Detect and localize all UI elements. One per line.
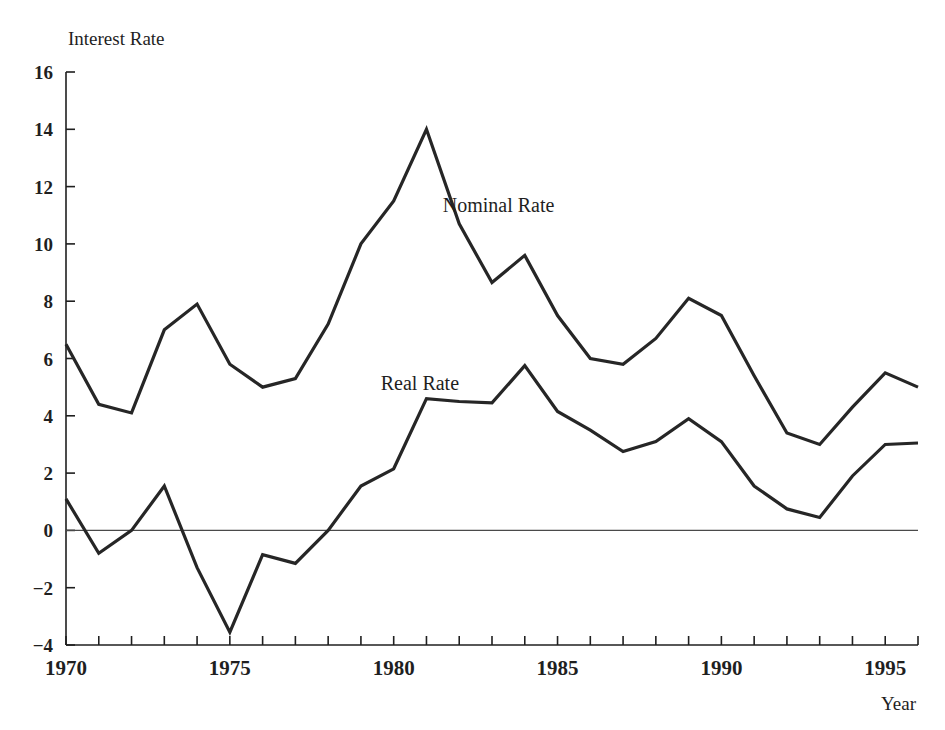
- real-rate-line: [66, 366, 918, 632]
- chart-svg: −4−20246810121416 1970197519801985199019…: [0, 0, 945, 730]
- x-tick-label: 1990: [700, 656, 742, 680]
- x-axis-ticks: [66, 636, 918, 645]
- x-tick-label: 1980: [373, 656, 415, 680]
- y-axis-tick-labels: −4−20246810121416: [33, 62, 54, 656]
- y-tick-label: −2: [33, 578, 53, 599]
- y-tick-label: 16: [34, 62, 53, 83]
- interest-rate-chart: −4−20246810121416 1970197519801985199019…: [0, 0, 945, 730]
- real-rate-label: Real Rate: [381, 372, 459, 394]
- y-tick-label: 8: [44, 291, 54, 312]
- nominal-rate-line: [66, 129, 918, 444]
- y-tick-label: −4: [33, 635, 54, 656]
- y-tick-label: 0: [44, 520, 54, 541]
- nominal-rate-label: Nominal Rate: [443, 194, 555, 216]
- y-tick-label: 10: [34, 234, 53, 255]
- x-tick-label: 1985: [537, 656, 579, 680]
- y-tick-label: 4: [44, 406, 54, 427]
- y-tick-label: 14: [34, 119, 54, 140]
- x-axis-tick-labels: 197019751980198519901995: [45, 656, 906, 680]
- y-axis-title: Interest Rate: [68, 28, 165, 49]
- y-tick-label: 2: [44, 463, 54, 484]
- y-tick-label: 6: [44, 349, 54, 370]
- y-tick-label: 12: [34, 177, 53, 198]
- x-axis-title: Year: [881, 693, 917, 714]
- x-tick-label: 1970: [45, 656, 87, 680]
- x-tick-label: 1975: [209, 656, 251, 680]
- x-tick-label: 1995: [864, 656, 906, 680]
